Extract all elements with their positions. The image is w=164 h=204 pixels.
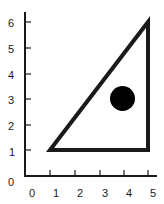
y-label-5: 5 [8, 43, 14, 55]
x-label-2: 2 [77, 187, 83, 199]
y-tick-labels: 0 1 2 3 4 5 6 [8, 17, 15, 188]
y-label-1: 1 [9, 146, 15, 158]
y-label-0: 0 [8, 176, 14, 188]
y-label-3: 3 [8, 94, 14, 106]
y-label-2: 2 [8, 120, 14, 132]
plot-canvas: 0 1 2 3 4 5 6 0 1 2 3 4 5 [0, 0, 164, 204]
x-label-3: 3 [102, 187, 108, 199]
x-label-0: 0 [29, 187, 35, 199]
y-label-4: 4 [8, 69, 14, 81]
x-label-1: 1 [53, 187, 59, 199]
x-tick-labels: 0 1 2 3 4 5 [29, 187, 156, 199]
triangle-shape [50, 22, 148, 150]
y-label-6: 6 [8, 17, 14, 29]
x-label-4: 4 [126, 187, 132, 199]
x-label-5: 5 [150, 187, 156, 199]
filled-dot [110, 86, 135, 111]
coordinate-plot-figure: 0 1 2 3 4 5 6 0 1 2 3 4 5 [0, 0, 164, 204]
